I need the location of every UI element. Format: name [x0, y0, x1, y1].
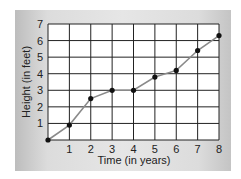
x-tick-label: 7 — [195, 143, 201, 155]
y-axis-label: Height (in feet) — [20, 46, 32, 118]
x-tick-label: 8 — [216, 143, 222, 155]
data-point — [45, 137, 50, 142]
y-tick-label: 5 — [37, 51, 43, 63]
data-point — [216, 33, 221, 38]
x-tick-label: 1 — [66, 143, 72, 155]
data-point — [195, 48, 200, 53]
data-point — [131, 88, 136, 93]
y-tick-label: 3 — [37, 84, 43, 96]
data-point — [88, 96, 93, 101]
x-axis-label: Time (in years) — [98, 154, 171, 166]
data-point — [152, 74, 157, 79]
x-tick-label: 2 — [88, 143, 94, 155]
y-tick-label: 4 — [37, 68, 43, 80]
y-axis-ticks: 1234567 — [37, 18, 43, 129]
y-tick-label: 7 — [37, 18, 43, 30]
data-point — [110, 88, 115, 93]
data-point — [67, 122, 72, 127]
x-tick-label: 6 — [173, 143, 179, 155]
data-point — [174, 68, 179, 73]
y-tick-label: 6 — [37, 35, 43, 47]
y-tick-label: 2 — [37, 101, 43, 113]
y-tick-label: 1 — [37, 117, 43, 129]
line-chart: 1234567 12345678 Time (in years) Height … — [0, 0, 241, 179]
